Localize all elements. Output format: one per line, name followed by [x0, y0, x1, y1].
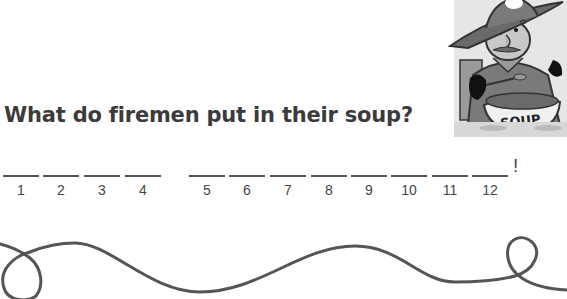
answer-blank[interactable]: 11 [432, 160, 468, 198]
riddle-question: What do firemen put in their soup? [4, 103, 413, 127]
blank-number: 7 [270, 182, 306, 198]
answer-blank[interactable]: 6 [229, 160, 265, 198]
blank-number: 3 [84, 182, 120, 198]
answer-blank[interactable]: 1 [3, 160, 39, 198]
answer-blank[interactable]: 5 [189, 160, 225, 198]
blank-number: 8 [311, 182, 347, 198]
blank-number: 4 [125, 182, 161, 198]
blank-number: 9 [351, 182, 387, 198]
answer-blank[interactable]: 2 [43, 160, 79, 198]
answer-blank[interactable]: 10 [391, 160, 427, 198]
blank-number: 10 [391, 182, 427, 198]
blank-number: 11 [432, 182, 468, 198]
answer-blank[interactable]: 7 [270, 160, 306, 198]
decorative-squiggle-line [0, 200, 567, 299]
answer-blank[interactable]: 8 [311, 160, 347, 198]
answer-blank[interactable]: 9 [351, 160, 387, 198]
answer-blank[interactable]: 4 [125, 160, 161, 198]
blank-number: 2 [43, 182, 79, 198]
answer-blank[interactable]: 3 [84, 160, 120, 198]
blank-number: 12 [472, 182, 508, 198]
blank-number: 1 [3, 182, 39, 198]
fireman-soup-illustration: SOUP [448, 0, 567, 137]
answer-blanks: 1 2 3 4 5 6 7 8 9 10 11 12 [0, 160, 567, 200]
blank-number: 6 [229, 182, 265, 198]
answer-blank[interactable]: 12 [472, 160, 508, 198]
blank-number: 5 [189, 182, 225, 198]
exclamation-mark: ! [513, 155, 518, 177]
